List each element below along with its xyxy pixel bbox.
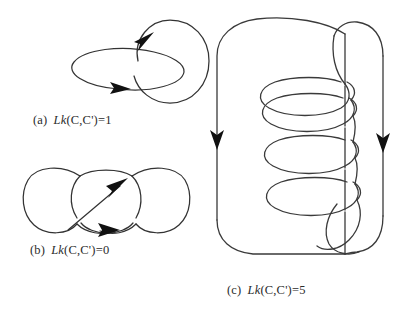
outer-loop-right-side bbox=[334, 22, 383, 56]
caption-b-lk: Lk bbox=[51, 243, 64, 257]
center-left-arc bbox=[71, 176, 80, 218]
caption-c-label: (c) bbox=[227, 283, 241, 297]
figure-panel-c bbox=[205, 8, 395, 280]
caption-b: (b)Lk(C,C')=0 bbox=[30, 243, 109, 258]
coiled-link-diagram bbox=[205, 8, 395, 280]
figure-panel-a bbox=[60, 14, 220, 124]
ellipse-strand-left bbox=[72, 48, 184, 90]
coil-turn-3-front bbox=[264, 136, 356, 174]
center-right-arc bbox=[132, 176, 141, 218]
direction-arrow-horizontal bbox=[98, 223, 120, 237]
caption-a-lk: Lk bbox=[53, 113, 66, 127]
unlink-diagram bbox=[20, 162, 195, 242]
caption-c-expression: (C,C')=5 bbox=[260, 283, 305, 297]
outer-loop-left-and-top bbox=[217, 18, 345, 220]
hopf-link-diagram bbox=[60, 14, 220, 124]
coil-turn-2-front bbox=[262, 94, 354, 132]
caption-a-expression: (C,C')=1 bbox=[66, 113, 111, 127]
caption-c-lk: Lk bbox=[247, 283, 260, 297]
figure-canvas: (a)Lk(C,C')=1 (b)Lk(C bbox=[0, 0, 403, 316]
coil-link-3-to-4 bbox=[355, 158, 357, 184]
coil-entry-strand bbox=[333, 36, 345, 84]
coil-link-2-to-3 bbox=[353, 116, 355, 142]
caption-b-expression: (C,C')=0 bbox=[64, 243, 109, 257]
coil-turn-4-behind bbox=[353, 182, 360, 200]
caption-b-label: (b) bbox=[30, 243, 45, 257]
coil-turn-3-behind bbox=[351, 140, 358, 158]
coil-turn-5-descending bbox=[317, 200, 360, 249]
caption-a: (a)Lk(C,C')=1 bbox=[33, 113, 112, 128]
figure-panel-b bbox=[20, 162, 195, 242]
coil-turn-2-behind bbox=[349, 98, 356, 116]
center-upper-arc bbox=[80, 170, 132, 176]
circle-strand-right bbox=[134, 20, 209, 103]
coil-turn-5-closing bbox=[326, 204, 359, 254]
caption-a-label: (a) bbox=[33, 113, 47, 127]
caption-c: (c)Lk(C,C')=5 bbox=[227, 283, 306, 298]
outer-loop-bottom-right bbox=[345, 216, 383, 254]
